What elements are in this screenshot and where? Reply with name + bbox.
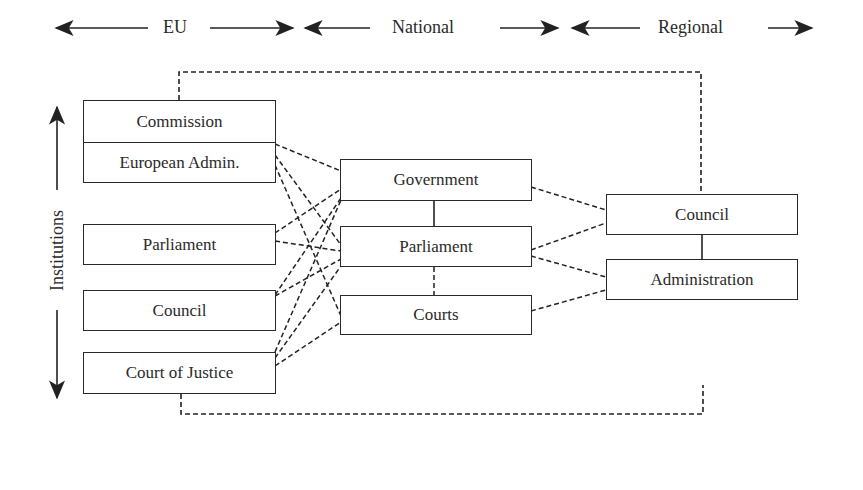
level-label-national: National: [392, 17, 454, 38]
regional-box-council: Council: [606, 194, 798, 235]
eu-box-parliament: Parliament: [83, 224, 276, 265]
eu-box-european-admin: European Admin.: [83, 142, 276, 183]
institutions-axis-label: Institutions: [47, 206, 68, 296]
level-label-eu: EU: [163, 17, 187, 38]
eu-box-court-of-justice: Court of Justice: [83, 352, 276, 394]
national-box-parliament: Parliament: [340, 226, 532, 267]
national-box-courts: Courts: [340, 295, 532, 335]
level-label-regional: Regional: [658, 17, 723, 38]
eu-box-council: Council: [83, 290, 276, 331]
national-box-government: Government: [340, 159, 532, 201]
regional-box-administration: Administration: [606, 259, 798, 300]
eu-box-commission: Commission: [83, 100, 276, 143]
